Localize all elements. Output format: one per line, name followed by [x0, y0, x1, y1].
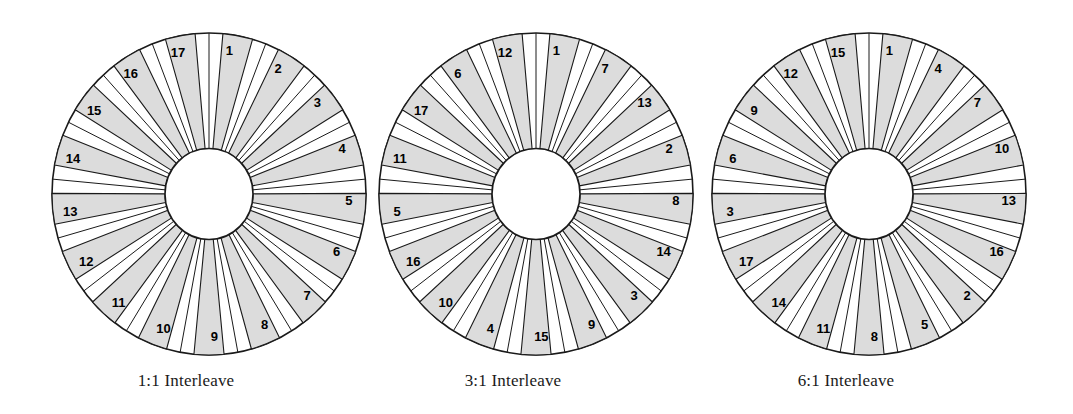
sector-label: 5	[394, 204, 401, 219]
sector-label: 6	[729, 151, 736, 166]
sector-label: 8	[871, 329, 878, 344]
disk-platter-1-1: 1234567891011121314151617	[38, 23, 380, 365]
sector-label: 11	[112, 295, 126, 310]
sector-label: 14	[771, 295, 786, 310]
sector-label: 12	[79, 254, 93, 269]
disk-caption-6-1: 6:1 Interleave	[726, 371, 966, 391]
sector-label: 12	[784, 66, 798, 81]
sector-label: 3	[314, 95, 321, 110]
sector-label: 7	[304, 288, 311, 303]
sector-label: 15	[831, 45, 845, 60]
disk-platter-3-1: 1713281439154101651117612	[365, 23, 707, 365]
sector-label: 8	[261, 317, 268, 332]
sector-label: 13	[637, 95, 651, 110]
disk-hub-circle	[825, 149, 913, 240]
disk-platter-6-1: 1471013162581114173691215	[698, 23, 1040, 365]
disk-caption-3-1: 3:1 Interleave	[393, 371, 633, 391]
sector-label: 9	[211, 329, 218, 344]
sector-label: 7	[601, 61, 608, 76]
sector-label: 1	[226, 43, 233, 58]
disk-hub-circle	[492, 149, 580, 240]
sector-label: 5	[345, 193, 352, 208]
sector-label: 1	[886, 43, 893, 58]
sector-label: 7	[974, 95, 981, 110]
sector-label: 13	[63, 204, 77, 219]
sector-label: 13	[1002, 193, 1016, 208]
disk-diagram: 1234567891011121314151617	[38, 23, 380, 365]
sector-label: 12	[498, 45, 512, 60]
sector-label: 11	[393, 151, 407, 166]
sector-label: 14	[656, 244, 671, 259]
disk-diagram: 1471013162581114173691215	[698, 23, 1040, 365]
interleave-figure: 12345678910111213141516171:1 Interleave1…	[0, 0, 1073, 414]
sector-label: 10	[156, 321, 170, 336]
sector-label: 3	[727, 204, 734, 219]
sector-label: 4	[487, 321, 495, 336]
sector-label: 1	[553, 43, 560, 58]
sector-label: 8	[672, 193, 679, 208]
sector-label: 5	[921, 317, 928, 332]
sector-label: 17	[739, 254, 753, 269]
sector-label: 16	[124, 66, 138, 81]
sector-label: 17	[171, 45, 185, 60]
sector-label: 11	[817, 321, 831, 336]
sector-label: 16	[989, 244, 1003, 259]
sector-label: 9	[588, 317, 595, 332]
sector-label: 10	[438, 295, 452, 310]
sector-label: 6	[454, 66, 461, 81]
sector-label: 2	[665, 141, 672, 156]
sector-label: 2	[964, 288, 971, 303]
sector-label: 17	[414, 103, 428, 118]
sector-label: 4	[338, 141, 346, 156]
sector-label: 2	[274, 61, 281, 76]
sector-label: 15	[87, 103, 101, 118]
sector-label: 6	[333, 244, 340, 259]
sector-label: 9	[751, 103, 758, 118]
disk-diagram: 1713281439154101651117612	[365, 23, 707, 365]
sector-label: 16	[406, 254, 420, 269]
sector-label: 4	[934, 61, 942, 76]
disk-hub-circle	[165, 149, 253, 240]
sector-label: 10	[995, 141, 1009, 156]
sector-label: 15	[534, 329, 548, 344]
sector-label: 3	[631, 288, 638, 303]
disk-caption-1-1: 1:1 Interleave	[66, 371, 306, 391]
sector-label: 14	[66, 151, 81, 166]
